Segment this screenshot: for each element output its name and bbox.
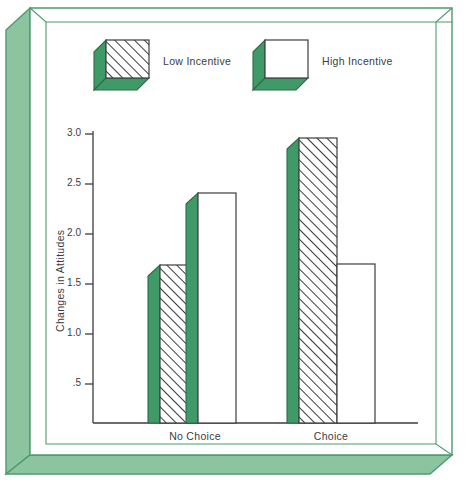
x-tick-label-choice: Choice <box>276 430 386 442</box>
bar-front-face <box>299 138 337 423</box>
bar-side-face <box>148 265 160 423</box>
figure-canvas: Low Incentive High Incentive <box>0 0 466 484</box>
bar-front-face <box>337 264 375 423</box>
y-axis-title: Changes in Attitudes <box>54 230 66 332</box>
bar-side-face <box>186 193 198 423</box>
bar-choice-high-incentive <box>337 264 375 423</box>
bar-choice-low-incentive <box>287 138 337 423</box>
bar-chart-plot <box>0 0 466 484</box>
bar-side-face <box>287 138 299 423</box>
x-tick-label-no-choice: No Choice <box>140 430 250 442</box>
bar-no-choice-high-incentive <box>186 193 236 423</box>
bar-front-face <box>198 193 236 423</box>
y-tick-label-0-5: .5 <box>55 377 81 388</box>
y-tick-label-2-5: 2.5 <box>55 177 81 188</box>
y-tick-label-3-0: 3.0 <box>55 127 81 138</box>
y-axis-ticks <box>85 134 93 384</box>
